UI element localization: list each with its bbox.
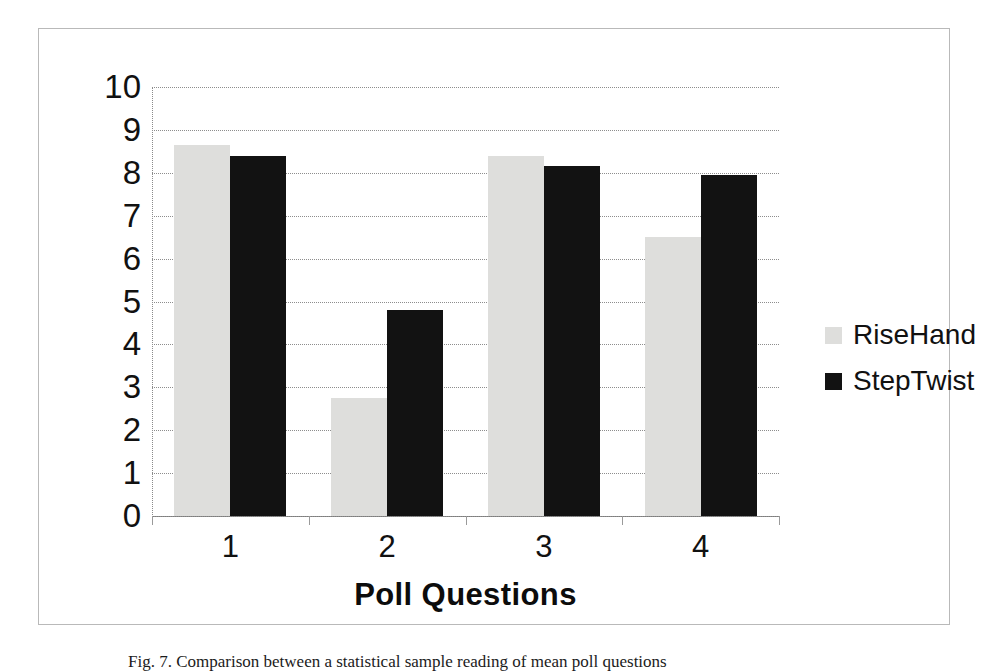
- bar-steptwist-q4[interactable]: [701, 175, 757, 516]
- legend-entry-steptwist[interactable]: StepTwist: [825, 358, 976, 404]
- x-axis-tick: [779, 516, 780, 525]
- x-category-label-3: 3: [466, 531, 623, 562]
- x-category-label-2: 2: [309, 531, 466, 562]
- y-tick-label: 3: [89, 370, 141, 403]
- x-axis-title: Poll Questions: [152, 577, 779, 613]
- x-axis-tick: [309, 516, 310, 525]
- figure-caption: Fig. 7. Comparison between a statistical…: [128, 651, 888, 672]
- legend-swatch-risehand: [825, 327, 842, 344]
- y-tick-label: 5: [89, 285, 141, 318]
- legend-entry-risehand[interactable]: RiseHand: [825, 312, 976, 358]
- bar-risehand-q2[interactable]: [331, 398, 387, 516]
- plot-area: [152, 87, 779, 516]
- legend-swatch-steptwist: [825, 373, 842, 390]
- y-tick-label: 2: [89, 413, 141, 446]
- bar-steptwist-q1[interactable]: [230, 156, 286, 516]
- y-tick-label: 7: [89, 199, 141, 232]
- gridline: [152, 130, 779, 131]
- y-tick-label: 4: [89, 327, 141, 360]
- bar-risehand-q3[interactable]: [488, 156, 544, 516]
- x-axis-tick: [466, 516, 467, 525]
- bar-steptwist-q3[interactable]: [544, 166, 600, 516]
- bar-steptwist-q2[interactable]: [387, 310, 443, 516]
- legend-label-steptwist: StepTwist: [853, 367, 974, 395]
- y-tick-label: 6: [89, 242, 141, 275]
- gridline: [152, 87, 779, 88]
- figure-frame: 109876543210 1234 Poll Questions RiseHan…: [38, 28, 950, 625]
- x-axis-tick: [152, 516, 153, 525]
- y-tick-label: 9: [89, 113, 141, 146]
- x-category-label-4: 4: [622, 531, 779, 562]
- x-category-label-1: 1: [152, 531, 309, 562]
- y-axis-tick-labels: 109876543210: [85, 29, 141, 624]
- bar-risehand-q1[interactable]: [174, 145, 230, 516]
- y-tick-label: 10: [89, 70, 141, 103]
- figure-caption-text: Comparison between a statistical sample …: [176, 652, 667, 671]
- x-axis-tick: [622, 516, 623, 525]
- y-tick-label: 1: [89, 456, 141, 489]
- chart-legend: RiseHand StepTwist: [825, 312, 976, 404]
- y-tick-label: 0: [89, 499, 141, 532]
- figure-caption-label: Fig. 7.: [128, 652, 172, 671]
- y-tick-label: 8: [89, 156, 141, 189]
- bar-risehand-q4[interactable]: [645, 237, 701, 516]
- legend-label-risehand: RiseHand: [853, 321, 976, 349]
